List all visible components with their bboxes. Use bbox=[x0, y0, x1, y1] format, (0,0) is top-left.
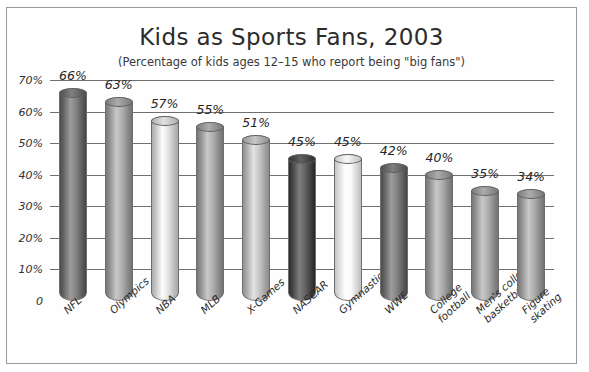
bar-top-ellipse bbox=[425, 170, 453, 180]
bar-college-football: 40%Collegefootball bbox=[425, 170, 453, 301]
bar-mlb: 55%MLB bbox=[196, 122, 224, 301]
bar-top-ellipse bbox=[105, 97, 133, 107]
bar-nba: 57%NBA bbox=[151, 116, 179, 301]
bar-body bbox=[196, 127, 224, 301]
plot-area: 010%20%30%40%50%60%70% 66%NFL63%Olympics… bbox=[50, 80, 554, 301]
bar-x-games: 51%X-Games bbox=[242, 135, 270, 301]
chart-frame: Kids as Sports Fans, 2003 (Percentage of… bbox=[6, 7, 577, 364]
bar-wwe: 42%WWE bbox=[380, 163, 408, 301]
bar-figure-skating: 34%Figureskating bbox=[517, 189, 545, 301]
bar-body bbox=[334, 159, 362, 301]
bar-top-ellipse bbox=[242, 135, 270, 145]
bar-top-ellipse bbox=[151, 116, 179, 126]
bar-body bbox=[471, 191, 499, 302]
bar-value-label: 63% bbox=[105, 77, 133, 92]
bar-body bbox=[59, 93, 87, 301]
bar-body bbox=[105, 102, 133, 301]
bar-value-label: 51% bbox=[242, 115, 270, 130]
bar-value-label: 66% bbox=[59, 68, 87, 83]
bar-nfl: 66%NFL bbox=[59, 88, 87, 301]
y-axis-tick-label: 30% bbox=[19, 200, 43, 213]
bar-men-s-college-basketball: 35%Men's collegebasketball bbox=[471, 186, 499, 302]
bar-gymnastics: 45%Gymnastics bbox=[334, 154, 362, 301]
y-axis-tick-label: 40% bbox=[19, 168, 43, 181]
bar-value-label: 34% bbox=[517, 169, 545, 184]
bar-top-ellipse bbox=[334, 154, 362, 164]
y-axis-tick-label: 60% bbox=[19, 105, 43, 118]
bar-body bbox=[151, 121, 179, 301]
bar-top-ellipse bbox=[517, 189, 545, 199]
bar-value-label: 42% bbox=[380, 143, 408, 158]
bar-value-label: 45% bbox=[334, 134, 362, 149]
y-axis-tick-label: 10% bbox=[19, 263, 43, 276]
bar-nascar: 45%NASCAR bbox=[288, 154, 316, 301]
bar-top-ellipse bbox=[471, 186, 499, 196]
y-axis-tick-label: 0 bbox=[36, 295, 43, 308]
bar-body bbox=[517, 194, 545, 301]
scan-edge-sliver bbox=[8, 0, 328, 5]
y-axis-tick-label: 70% bbox=[19, 74, 43, 87]
y-axis-tick-label: 20% bbox=[19, 231, 43, 244]
bar-body bbox=[380, 168, 408, 301]
bar-value-label: 45% bbox=[288, 134, 316, 149]
bar-value-label: 55% bbox=[196, 102, 224, 117]
bar-body bbox=[425, 175, 453, 301]
y-axis-tick-label: 50% bbox=[19, 137, 43, 150]
chart-title: Kids as Sports Fans, 2003 bbox=[7, 24, 576, 50]
bar-body bbox=[242, 140, 270, 301]
bar-top-ellipse bbox=[288, 154, 316, 164]
chart-subtitle: (Percentage of kids ages 12–15 who repor… bbox=[7, 55, 576, 69]
bar-value-label: 35% bbox=[471, 166, 499, 181]
bar-value-label: 57% bbox=[151, 96, 179, 111]
bar-value-label: 40% bbox=[426, 150, 454, 165]
bar-top-ellipse bbox=[59, 88, 87, 98]
bar-olympics: 63%Olympics bbox=[105, 97, 133, 301]
bar-body bbox=[288, 159, 316, 301]
